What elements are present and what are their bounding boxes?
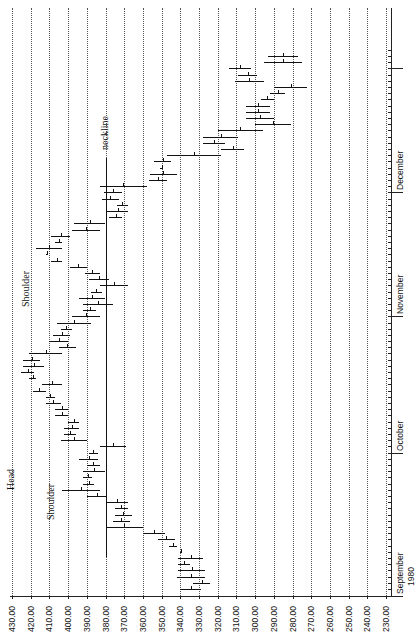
close-tick: [86, 227, 87, 230]
price-range-bar: [115, 508, 128, 509]
time-tick: [388, 254, 391, 255]
time-tick: [388, 304, 391, 305]
close-tick: [191, 574, 192, 577]
month-tick: [391, 192, 403, 193]
price-tick: [68, 596, 69, 599]
close-tick: [61, 233, 62, 236]
price-range-bar: [178, 564, 189, 565]
time-tick: [388, 168, 391, 169]
month-tick: [391, 596, 403, 597]
time-tick: [388, 273, 391, 274]
time-tick: [388, 515, 391, 516]
time-tick: [388, 161, 391, 162]
gridline: [330, 8, 331, 596]
close-tick: [123, 183, 124, 186]
close-tick: [162, 165, 163, 168]
time-tick: [388, 403, 391, 404]
price-range-bar: [107, 211, 128, 212]
month-tick: [391, 453, 403, 454]
price-range-bar: [106, 527, 143, 528]
close-tick: [90, 220, 91, 223]
price-tick-label: 320.00: [213, 606, 223, 632]
close-tick: [116, 214, 117, 217]
month-label: December: [395, 151, 405, 190]
price-tick: [311, 596, 312, 599]
time-tick: [388, 533, 391, 534]
time-tick: [388, 93, 391, 94]
time-tick: [388, 99, 391, 100]
price-range-bar: [178, 558, 202, 559]
time-tick: [388, 465, 391, 466]
price-range-bar: [261, 99, 274, 100]
price-range-bar: [106, 502, 128, 503]
time-tick: [388, 378, 391, 379]
price-tick: [349, 596, 350, 599]
time-tick: [388, 397, 391, 398]
close-tick: [122, 202, 123, 205]
price-range-bar: [143, 533, 165, 534]
price-range-bar: [46, 397, 55, 398]
price-range-bar: [29, 378, 36, 379]
time-tick: [388, 143, 391, 144]
head-and-shoulders-chart: necklineHeadShoulderShoulder 430.00420.0…: [0, 0, 418, 633]
close-tick: [74, 437, 75, 440]
price-tick-label: 400.00: [63, 606, 73, 632]
price-range-bar: [167, 155, 221, 156]
close-tick: [121, 505, 122, 508]
price-range-bar: [55, 409, 68, 410]
close-tick: [97, 493, 98, 496]
close-tick: [113, 443, 114, 446]
time-tick: [388, 415, 391, 416]
time-tick: [388, 577, 391, 578]
close-tick: [99, 276, 100, 279]
close-tick: [62, 332, 63, 335]
time-tick: [388, 391, 391, 392]
price-tick: [293, 596, 294, 599]
price-range-bar: [57, 323, 91, 324]
close-tick: [267, 96, 268, 99]
time-tick: [388, 81, 391, 82]
price-range-bar: [246, 106, 270, 107]
time-tick: [388, 310, 391, 311]
month-tick: [391, 68, 403, 69]
close-tick: [62, 406, 63, 409]
time-tick: [388, 230, 391, 231]
price-range-bar: [55, 415, 68, 416]
close-tick: [123, 512, 124, 515]
price-tick-label: 390.00: [82, 606, 92, 632]
price-range-bar: [83, 484, 94, 485]
close-tick: [92, 295, 93, 298]
price-range-bar: [100, 446, 126, 447]
price-tick-label: 350.00: [157, 606, 167, 632]
price-tick-label: 240.00: [362, 606, 372, 632]
close-tick: [74, 320, 75, 323]
price-range-bar: [169, 546, 176, 547]
time-tick: [388, 347, 391, 348]
price-tick: [180, 596, 181, 599]
time-tick: [388, 484, 391, 485]
gridline: [180, 8, 181, 596]
time-tick: [388, 323, 391, 324]
close-tick: [194, 152, 195, 155]
time-tick: [388, 384, 391, 385]
close-tick: [93, 462, 94, 465]
close-tick: [93, 450, 94, 453]
price-range-bar: [102, 199, 119, 200]
price-range-bar: [255, 124, 291, 125]
time-tick: [388, 137, 391, 138]
close-tick: [57, 258, 58, 261]
price-range-bar: [70, 267, 87, 268]
price-tick: [143, 596, 144, 599]
close-tick: [181, 549, 182, 552]
price-range-bar: [91, 292, 102, 293]
price-tick: [367, 596, 368, 599]
price-tick: [87, 596, 88, 599]
price-range-bar: [51, 261, 62, 262]
gridline: [311, 8, 312, 596]
price-range-bar: [274, 87, 308, 88]
gridline: [218, 8, 219, 596]
time-tick: [388, 372, 391, 373]
time-tick: [388, 558, 391, 559]
close-tick: [258, 109, 259, 112]
price-range-bar: [113, 521, 130, 522]
